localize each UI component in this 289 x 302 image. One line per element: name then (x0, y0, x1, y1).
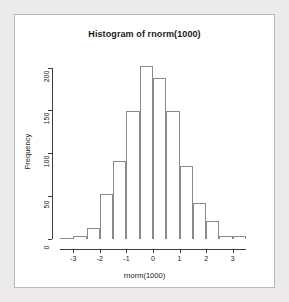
histogram-bar (206, 221, 219, 239)
histogram-bar (153, 78, 166, 239)
x-axis-tick-label: 1 (170, 255, 190, 262)
x-axis-label: rnorm(1000) (15, 271, 274, 280)
chart-title: Histogram of rnorm(1000) (15, 29, 274, 39)
x-axis-tick (73, 249, 74, 253)
x-axis-tick-label: -1 (116, 255, 136, 262)
histogram-bar (193, 203, 206, 239)
x-axis-tick-label: -3 (63, 255, 83, 262)
x-axis-tick (206, 249, 207, 253)
y-axis-tick-label: 150 (43, 109, 50, 129)
y-axis-tick-label: 200 (43, 66, 50, 86)
y-axis-line (52, 68, 53, 239)
histogram-bar (219, 236, 232, 239)
y-axis-tick-label: 0 (43, 238, 50, 258)
histogram-bar (87, 228, 100, 239)
x-axis-tick-label: 0 (143, 255, 163, 262)
histogram-bar (73, 236, 86, 239)
histogram-bar (180, 166, 193, 239)
histogram-bar (166, 111, 179, 239)
y-axis-tick-label: 50 (43, 195, 50, 215)
histogram-bar (100, 194, 113, 239)
histogram-plot: Histogram of rnorm(1000) Frequency rnorm… (15, 15, 274, 287)
x-axis-tick (180, 249, 181, 253)
plot-window-frame: Histogram of rnorm(1000) Frequency rnorm… (14, 14, 275, 288)
x-axis-tick (100, 249, 101, 253)
y-axis-tick-label: 100 (43, 152, 50, 172)
x-axis-tick (233, 249, 234, 253)
x-axis-tick-label: 2 (196, 255, 216, 262)
histogram-bar (113, 161, 126, 239)
histogram-bar (60, 238, 73, 239)
x-axis-tick (153, 249, 154, 253)
screenshot-canvas: Histogram of rnorm(1000) Frequency rnorm… (0, 0, 289, 302)
histogram-bar (126, 111, 139, 239)
x-axis-tick-label: -2 (90, 255, 110, 262)
y-axis-label: Frequency (23, 122, 32, 182)
histogram-bar (233, 236, 246, 239)
histogram-bar (140, 66, 153, 239)
x-axis-tick (126, 249, 127, 253)
x-axis-tick-label: 3 (223, 255, 243, 262)
